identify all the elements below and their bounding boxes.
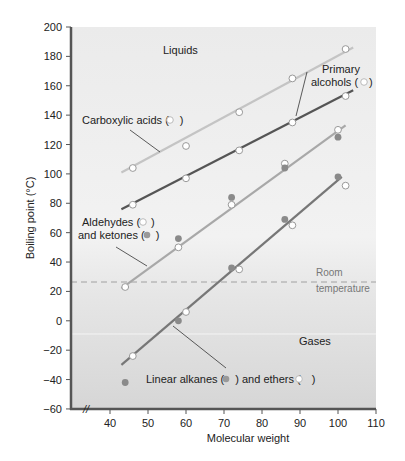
x-tick-label: 70 [218,417,230,429]
x-tick-label: 110 [367,417,385,429]
filled-data-point [228,194,235,201]
open-data-point [342,93,349,100]
y-tick-label: 20 [50,285,62,297]
y-tick-label: 160 [44,80,62,92]
filled-data-point [122,379,129,386]
filled-data-point [175,317,182,324]
open-data-point [236,147,243,154]
y-tick-label: −60 [43,403,62,415]
open-data-point [122,284,129,291]
axis-break: // [82,403,90,415]
filled-marker-icon [144,232,151,239]
open-data-point [289,119,296,126]
boiling-point-chart: −60−40−20020406080100120140160180200 405… [0,0,405,461]
open-data-point [289,75,296,82]
filled-data-point [175,235,182,242]
gases-label: Gases [299,335,331,347]
x-tick-label: 40 [104,417,116,429]
open-data-point [129,165,136,172]
x-tick-label: 50 [142,417,154,429]
temperature-label: temperature [316,283,370,294]
x-tick-label: 60 [180,417,192,429]
filled-data-point [281,165,288,172]
y-tick-label: 140 [44,109,62,121]
open-data-point [335,126,342,133]
y-tick-label: 80 [50,197,62,209]
open-data-point [342,46,349,53]
filled-marker-icon [223,376,230,383]
room-label: Room [316,267,343,278]
filled-data-point [335,134,342,141]
x-ticks: 405060708090100110 [104,409,385,429]
y-tick-label: −20 [43,344,62,356]
open-data-point [175,244,182,251]
filled-data-point [281,216,288,223]
y-tick-label: 60 [50,227,62,239]
open-marker-icon [361,79,368,86]
open-data-point [129,353,136,360]
open-marker-icon [296,376,303,383]
open-data-point [236,266,243,273]
open-data-point [183,309,190,316]
open-data-point [183,143,190,150]
y-tick-label: 40 [50,256,62,268]
x-tick-label: 90 [294,417,306,429]
y-tick-label: 180 [44,50,62,62]
open-data-point [183,175,190,182]
filled-data-point [335,173,342,180]
open-data-point [342,182,349,189]
y-ticks: −60−40−20020406080100120140160180200 [43,21,71,415]
filled-data-point [228,265,235,272]
primary-label: Primary [322,63,360,75]
y-axis-label: Boiling point (°C) [24,177,36,260]
x-axis-label: Molecular weight [207,432,290,444]
y-tick-label: 100 [44,168,62,180]
y-tick-label: 200 [44,21,62,33]
open-marker-icon [140,219,147,226]
open-data-point [289,222,296,229]
open-marker-icon [167,117,174,124]
open-data-point [228,201,235,208]
x-tick-label: 80 [256,417,268,429]
open-data-point [236,109,243,116]
open-data-point [129,201,136,208]
liquids-label: Liquids [163,44,198,56]
y-tick-label: 0 [56,315,62,327]
x-tick-label: 100 [329,417,347,429]
y-tick-label: 120 [44,139,62,151]
y-tick-label: −40 [43,374,62,386]
